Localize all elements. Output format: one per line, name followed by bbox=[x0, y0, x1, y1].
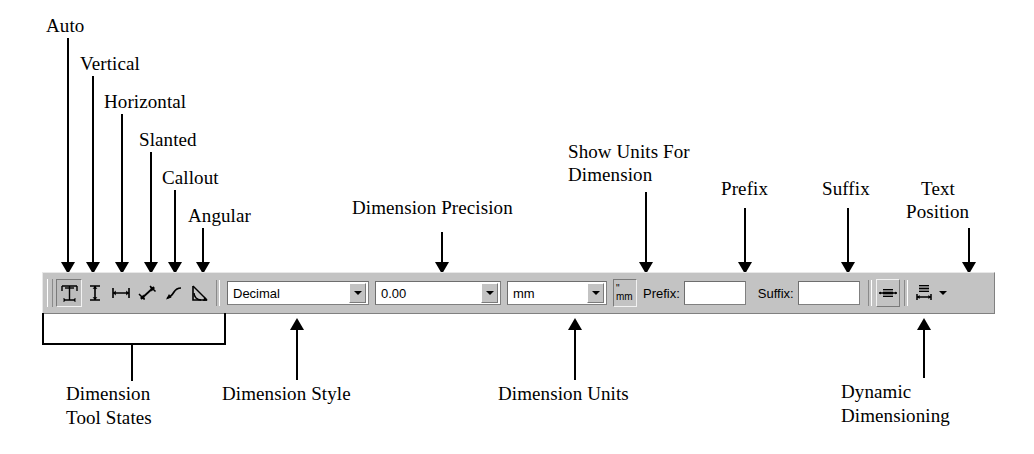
annotation-text-position-line2: Position bbox=[906, 200, 969, 223]
annotation-show-units-line1: Show Units For bbox=[568, 140, 690, 163]
chevron-down-icon bbox=[354, 291, 362, 295]
slanted-dimension-icon bbox=[138, 284, 157, 302]
leader-line-auto bbox=[67, 38, 69, 264]
leader-arrow-dynamic-dimensioning bbox=[917, 318, 931, 330]
dimension-style-dropdown-button[interactable] bbox=[349, 283, 366, 303]
annotation-dynamic-line1: Dynamic bbox=[841, 380, 911, 403]
leader-line-prefix bbox=[744, 208, 746, 264]
annotation-angular: Angular bbox=[188, 204, 251, 227]
annotation-vertical: Vertical bbox=[80, 52, 140, 75]
annotation-dimension-precision: Dimension Precision bbox=[352, 196, 513, 219]
chevron-down-icon bbox=[939, 291, 947, 295]
annotation-prefix: Prefix bbox=[721, 177, 768, 200]
dimension-style-combo[interactable]: Decimal bbox=[227, 281, 369, 305]
annotation-suffix: Suffix bbox=[822, 177, 870, 200]
toolbar-tool-state-group bbox=[56, 273, 212, 313]
toolbar-separator-2 bbox=[868, 280, 872, 306]
leader-line-angular bbox=[202, 228, 204, 264]
leader-line-suffix bbox=[847, 208, 849, 264]
toolbar-separator-3 bbox=[904, 280, 908, 306]
chevron-down-icon bbox=[486, 291, 494, 295]
prefix-input[interactable] bbox=[684, 281, 746, 305]
dynamic-dimensioning-icon bbox=[878, 287, 898, 299]
vertical-dimension-button[interactable] bbox=[82, 279, 108, 307]
leader-arrow-dimension-units bbox=[568, 318, 582, 330]
text-position-icon bbox=[914, 284, 934, 302]
annotation-tool-states-line2: Tool States bbox=[66, 406, 152, 429]
dimension-precision-value: 0.00 bbox=[376, 286, 481, 301]
toolbar-grip[interactable] bbox=[47, 279, 53, 307]
annotation-show-units-line2: Dimension bbox=[568, 163, 652, 186]
chevron-down-icon bbox=[592, 291, 600, 295]
leader-line-vertical bbox=[92, 76, 94, 264]
figure-root: Auto Vertical Horizontal Slanted Callout… bbox=[0, 0, 1034, 454]
auto-dimension-icon bbox=[60, 284, 79, 302]
annotation-dimension-style: Dimension Style bbox=[222, 382, 351, 405]
dimension-precision-dropdown-button[interactable] bbox=[481, 283, 498, 303]
dimension-toolbar: Decimal 0.00 mm " mm Prefix: bbox=[42, 272, 995, 314]
leader-line-dimension-precision bbox=[441, 232, 443, 264]
tool-states-bracket bbox=[42, 313, 226, 345]
leader-line-callout bbox=[174, 190, 176, 264]
callout-dimension-button[interactable] bbox=[160, 279, 186, 307]
annotation-slanted: Slanted bbox=[139, 128, 197, 151]
annotation-dimension-units: Dimension Units bbox=[498, 382, 629, 405]
vertical-dimension-icon bbox=[88, 284, 102, 302]
show-units-bottom-glyph: mm bbox=[616, 292, 633, 302]
callout-dimension-icon bbox=[164, 285, 183, 301]
leader-line-show-units bbox=[645, 192, 647, 264]
annotation-text-position-line1: Text bbox=[921, 177, 955, 200]
prefix-label: Prefix: bbox=[643, 286, 680, 301]
leader-line-dimension-style bbox=[296, 330, 298, 380]
annotation-tool-states-line1: Dimension bbox=[66, 382, 150, 405]
leader-arrow-dimension-style bbox=[290, 318, 304, 330]
annotation-callout: Callout bbox=[162, 166, 219, 189]
horizontal-dimension-button[interactable] bbox=[108, 279, 134, 307]
annotation-horizontal: Horizontal bbox=[104, 90, 186, 113]
dimension-style-value: Decimal bbox=[228, 286, 349, 301]
leader-line-horizontal bbox=[121, 114, 123, 264]
dimension-precision-combo[interactable]: 0.00 bbox=[375, 281, 501, 305]
leader-line-dimension-units bbox=[574, 330, 576, 380]
leader-line-tool-states bbox=[131, 343, 133, 381]
suffix-input[interactable] bbox=[798, 281, 860, 305]
toolbar-separator-1 bbox=[216, 280, 220, 306]
dynamic-dimensioning-button[interactable] bbox=[876, 279, 900, 307]
dimension-units-dropdown-button[interactable] bbox=[587, 283, 604, 303]
angular-dimension-button[interactable] bbox=[186, 279, 212, 307]
text-position-dropdown-button[interactable] bbox=[936, 279, 950, 307]
show-units-for-dimension-button[interactable]: " mm bbox=[613, 279, 637, 307]
horizontal-dimension-icon bbox=[111, 286, 131, 300]
leader-line-slanted bbox=[150, 152, 152, 264]
annotation-dynamic-line2: Dimensioning bbox=[841, 404, 950, 427]
slanted-dimension-button[interactable] bbox=[134, 279, 160, 307]
dimension-units-value: mm bbox=[508, 286, 587, 301]
dimension-units-combo[interactable]: mm bbox=[507, 281, 607, 305]
annotation-auto: Auto bbox=[46, 14, 84, 37]
leader-line-text-position bbox=[968, 228, 970, 264]
suffix-label: Suffix: bbox=[758, 286, 794, 301]
text-position-button[interactable] bbox=[912, 279, 936, 307]
leader-line-dynamic-dimensioning bbox=[923, 330, 925, 378]
auto-dimension-button[interactable] bbox=[56, 279, 82, 307]
angular-dimension-icon bbox=[190, 284, 209, 302]
